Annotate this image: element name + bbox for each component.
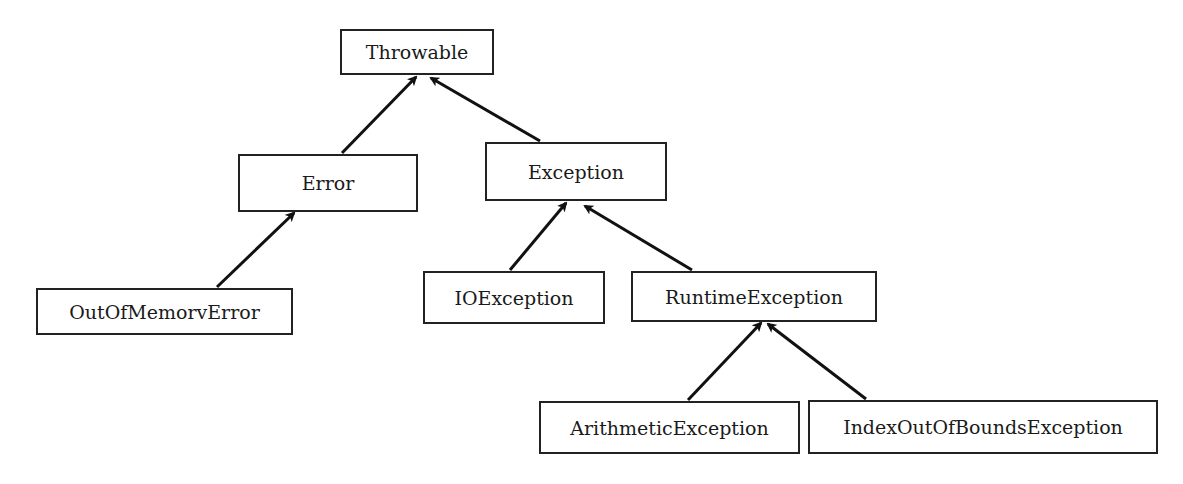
node-runtimeexception: RuntimeException	[631, 271, 877, 322]
node-label: ArithmeticException	[570, 417, 768, 439]
node-label: IndexOutOfBoundsException	[843, 416, 1123, 438]
node-label: OutOfMemorvError	[69, 301, 260, 323]
node-label: Exception	[528, 161, 624, 183]
arrow-ioexception-to-exception	[510, 203, 566, 270]
node-arithmeticexception: ArithmeticException	[539, 401, 800, 454]
node-throwable: Throwable	[340, 29, 494, 75]
node-indexoutofboundsexception: IndexOutOfBoundsException	[808, 400, 1158, 454]
node-label: Throwable	[366, 41, 469, 63]
arrow-arithmeticexception-to-runtimeexception	[688, 323, 761, 400]
arrow-runtimeexception-to-exception	[585, 206, 692, 270]
node-outofmemoryerror: OutOfMemorvError	[36, 288, 293, 335]
arrow-outofmemoryerror-to-error	[217, 213, 294, 287]
node-label: IOException	[454, 287, 573, 309]
node-error: Error	[238, 154, 418, 212]
node-label: RuntimeException	[665, 286, 843, 308]
node-ioexception: IOException	[423, 271, 605, 324]
node-label: Error	[302, 172, 355, 194]
arrow-error-to-throwable	[342, 77, 416, 153]
arrow-indexoutofboundsexception-to-runtimeexception	[768, 324, 866, 399]
arrow-exception-to-throwable	[431, 78, 540, 141]
node-exception: Exception	[485, 142, 667, 201]
